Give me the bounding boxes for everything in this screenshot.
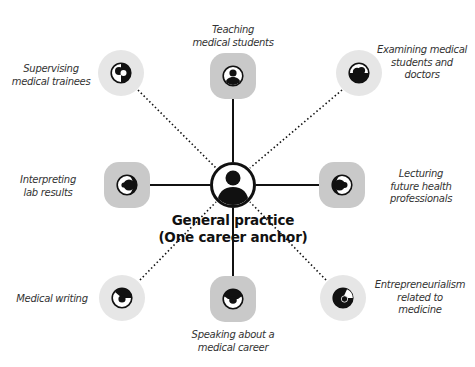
label-line: Speaking about a xyxy=(176,329,290,342)
node-lecturing xyxy=(319,162,365,208)
pie-icon xyxy=(331,174,353,196)
center-node xyxy=(210,162,256,208)
center-title: General practice (One career anchor) xyxy=(140,212,326,246)
label-medical-writing: Medical writing xyxy=(10,293,94,306)
person-icon xyxy=(222,65,244,87)
pie-icon xyxy=(348,62,370,84)
label-line: Medical writing xyxy=(10,293,94,306)
label-line: medical trainees xyxy=(5,76,97,89)
person-icon xyxy=(210,162,256,208)
node-entrepreneurialism xyxy=(320,275,366,321)
center-title-line1: General practice xyxy=(140,212,326,229)
label-line: Examining medical xyxy=(372,44,472,57)
label-lecturing: Lecturing future health professionals xyxy=(376,168,466,206)
node-interpreting xyxy=(104,162,150,208)
pie-icon xyxy=(116,174,138,196)
label-line: doctors xyxy=(372,69,472,82)
label-line: Interpreting xyxy=(8,174,88,187)
connector-top-left xyxy=(138,90,216,168)
label-line: Lecturing xyxy=(376,168,466,181)
node-teaching xyxy=(210,53,256,99)
label-line: Teaching xyxy=(178,24,288,37)
center-title-line2: (One career anchor) xyxy=(140,229,326,246)
node-medical-writing xyxy=(99,275,145,321)
node-supervising xyxy=(98,50,144,96)
pie-icon xyxy=(332,287,354,309)
label-examining: Examining medical students and doctors xyxy=(372,44,472,82)
pie-icon xyxy=(110,62,132,84)
label-line: Supervising xyxy=(5,63,97,76)
label-line: Entrepreneurialism xyxy=(368,279,472,292)
label-speaking: Speaking about a medical career xyxy=(176,329,290,354)
label-line: medical students xyxy=(178,37,288,50)
pie-icon xyxy=(222,288,244,310)
label-line: future health xyxy=(376,181,466,194)
label-interpreting: Interpreting lab results xyxy=(8,174,88,199)
node-speaking xyxy=(210,276,256,322)
label-supervising: Supervising medical trainees xyxy=(5,63,97,88)
label-line: lab results xyxy=(8,187,88,200)
pie-icon xyxy=(111,287,133,309)
label-teaching: Teaching medical students xyxy=(178,24,288,49)
label-line: related to xyxy=(368,292,472,305)
label-line: professionals xyxy=(376,193,466,206)
label-line: students and xyxy=(372,57,472,70)
connector-top-right xyxy=(250,90,342,168)
label-line: medical career xyxy=(176,342,290,355)
label-line: medicine xyxy=(368,304,472,317)
label-entrepreneurialism: Entrepreneurialism related to medicine xyxy=(368,279,472,317)
